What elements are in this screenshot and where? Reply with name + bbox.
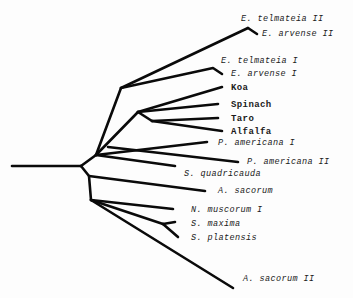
- s-maxima-branch: [163, 222, 175, 224]
- s-platensis-branch: [163, 224, 178, 237]
- taxon-label-p-americana-1: P. americana I: [218, 138, 295, 148]
- e-i-branch: [121, 68, 222, 88]
- taxon-label-p-americana-2: P. americana II: [247, 157, 330, 167]
- taxon-label-e-telmateia-1: E. telmateia I: [221, 56, 298, 66]
- s-quadricauda-branch: [96, 155, 175, 166]
- taxon-label-e-arvense-2: E. arvense II: [262, 29, 334, 39]
- lower-clade-stem: [81, 166, 91, 200]
- phylogenetic-tree: E. telmateia IIE. arvense IIE. telmateia…: [0, 0, 353, 298]
- alfalfa-branch: [152, 121, 222, 131]
- tree-branches: [0, 0, 353, 298]
- plant-clade-stem: [96, 88, 121, 155]
- taxon-label-s-quadricauda: S. quadricauda: [184, 169, 261, 179]
- taxon-label-e-telmateia-2: E. telmateia II: [241, 14, 324, 24]
- taxon-label-a-sacorum: A. sacorum: [218, 186, 273, 196]
- taxon-label-taro: Taro: [231, 114, 254, 124]
- taro-branch: [152, 118, 218, 121]
- taxon-label-spinach: Spinach: [231, 100, 272, 110]
- upper-clade-stem: [81, 155, 96, 166]
- taxon-label-alfalfa: Alfalfa: [231, 127, 272, 137]
- taxon-label-s-maxima: S. maxima: [191, 219, 241, 229]
- taxon-label-s-platensis: S. platensis: [191, 233, 257, 243]
- taxon-label-n-muscorum-1: N. muscorum I: [191, 205, 263, 215]
- taxon-label-e-arvense-1: E. arvense I: [231, 69, 297, 79]
- taxon-label-a-sacorum-2: A. sacorum II: [243, 274, 315, 284]
- taxon-label-koa: Koa: [231, 83, 248, 93]
- taro-alfalfa-stem: [138, 112, 152, 121]
